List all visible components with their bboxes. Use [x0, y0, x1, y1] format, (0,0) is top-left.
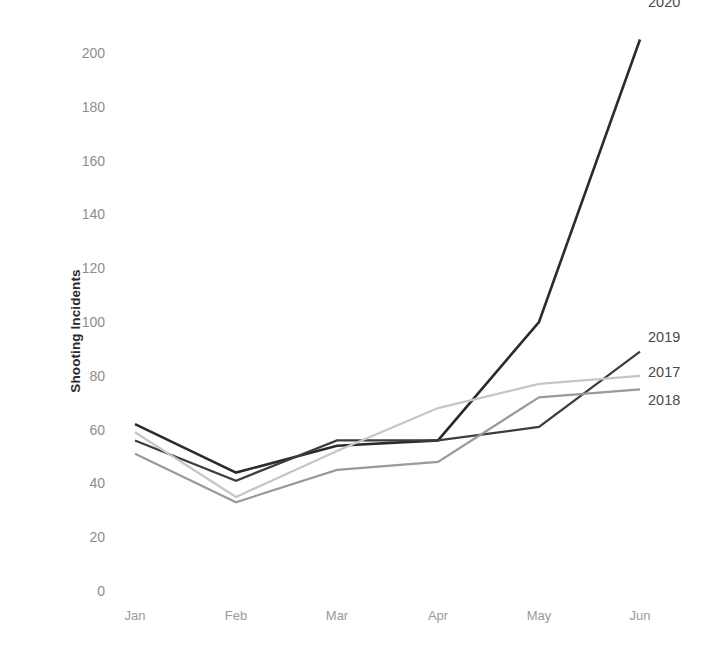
- series-lines: [135, 40, 640, 503]
- line-chart: Shooting Incidents 200180160140120100806…: [0, 0, 707, 661]
- series-end-label-2019: 2019: [648, 329, 680, 345]
- series-end-label-2020: 2020: [648, 0, 680, 10]
- series-line-2017: [135, 376, 640, 497]
- series-end-label-2018: 2018: [648, 392, 680, 408]
- series-end-label-2017: 2017: [648, 364, 680, 380]
- plot-area: [0, 0, 707, 661]
- series-line-2018: [135, 389, 640, 502]
